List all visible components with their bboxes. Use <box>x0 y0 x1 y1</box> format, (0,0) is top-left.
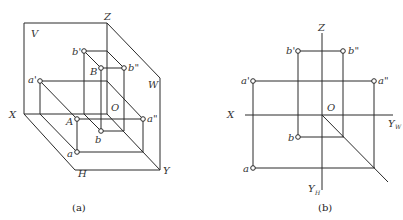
label-a-side: a" <box>378 75 389 86</box>
label-a-front: a' <box>28 74 37 85</box>
b-x-to-b <box>84 114 101 131</box>
w-plane-outline <box>107 23 160 170</box>
label-b-top: b <box>288 132 294 143</box>
point-a-side <box>372 79 377 84</box>
label-b-side: b" <box>348 45 359 56</box>
label-origin: O <box>327 102 335 113</box>
caption-a: (a) <box>72 202 86 213</box>
label-a-top: a <box>243 163 249 174</box>
label-b-top: b <box>95 134 101 145</box>
label-a-side: a" <box>147 113 158 124</box>
point-A <box>75 117 80 122</box>
point-a-front <box>251 79 256 84</box>
label-origin: O <box>111 102 119 113</box>
figure-a-pictorial: Z V W H X Y O a' A a a" b' B b" b (a) <box>8 11 171 213</box>
point-b-top <box>296 135 301 140</box>
label-x: X <box>226 109 235 120</box>
label-yh-sub: H <box>314 189 321 196</box>
caption-b: (b) <box>318 202 332 213</box>
label-h: H <box>77 168 87 179</box>
a-front-to-A <box>40 81 77 119</box>
point-b-side <box>122 66 127 71</box>
label-b-front: b' <box>72 46 81 57</box>
label-z: Z <box>103 11 112 22</box>
point-a-top <box>251 166 256 171</box>
label-A: A <box>65 116 73 127</box>
point-b-front <box>296 49 301 54</box>
label-a-top: a <box>67 148 73 159</box>
b-z-to-b-side <box>107 51 124 68</box>
label-b-front: b' <box>286 45 295 56</box>
point-b-side <box>341 49 346 54</box>
point-a-front <box>38 79 43 84</box>
label-b-side: b" <box>128 62 139 73</box>
point-b-top <box>99 129 104 134</box>
label-x: X <box>8 109 17 120</box>
point-a-side <box>141 117 146 122</box>
label-a-front: a' <box>241 75 250 86</box>
label-z: Z <box>317 22 326 33</box>
projection-diagrams: Z V W H X Y O a' A a a" b' B b" b (a) <box>0 0 403 220</box>
point-B <box>99 66 104 71</box>
figure-b-orthographic: Z X O Y W Y H a' a" a b' b" b (b) <box>226 22 402 213</box>
point-a-top <box>75 150 80 155</box>
label-v: V <box>31 28 40 39</box>
label-yw-sub: W <box>395 123 402 130</box>
label-B: B <box>89 66 97 77</box>
a-z-to-a-side <box>107 81 143 119</box>
label-w: W <box>148 79 159 90</box>
diagonal-45-line <box>322 115 388 182</box>
label-y: Y <box>163 165 171 176</box>
point-b-front <box>82 49 87 54</box>
